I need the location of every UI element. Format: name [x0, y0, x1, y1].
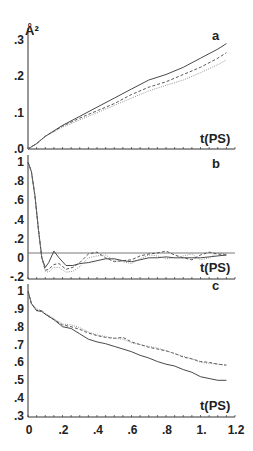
- y-tick-label: .6: [14, 355, 24, 369]
- x-tick-label: 1.2: [228, 423, 245, 437]
- series-dashed: [28, 162, 226, 270]
- y-tick-label: .3: [14, 33, 24, 47]
- y-tick-label: -.2: [10, 270, 24, 284]
- y-tick-label: .2: [14, 232, 24, 246]
- y-tick-label: .4: [14, 391, 24, 405]
- y-tick-label: .2: [14, 69, 24, 83]
- series-dotted: [28, 291, 226, 365]
- y-tick-label: .4: [14, 213, 24, 227]
- y-tick-label: .0: [14, 142, 24, 156]
- series-solid: [28, 291, 226, 380]
- series-solid: [28, 162, 226, 267]
- y-tick-label: 0: [17, 251, 24, 265]
- x-axis-label-b: t(PS): [200, 260, 230, 275]
- series-dotted: [28, 60, 226, 149]
- y-tick-label: .7: [14, 338, 24, 352]
- series-dashed: [28, 53, 226, 149]
- panel-b: -.20.2.4.6.81 b t(PS): [10, 155, 235, 284]
- x-axis-label-c: t(PS): [200, 398, 230, 413]
- panel-a: .0.1.2.3 Å² a t(PS): [14, 23, 235, 156]
- y-tick-label: 1: [17, 284, 24, 298]
- x-tick-label: 1.: [196, 423, 206, 437]
- chart-figure: .0.1.2.3 Å² a t(PS) -.20.2.4.6.81 b t(PS…: [0, 0, 253, 451]
- x-tick-label: 0: [26, 423, 33, 437]
- panel-label-c: c: [212, 278, 219, 293]
- x-tick-label: .8: [162, 423, 172, 437]
- y-tick-label: 1: [17, 155, 24, 169]
- panel-label-b: b: [212, 156, 220, 171]
- series-dashed: [28, 291, 226, 365]
- y-tick-label: .8: [14, 320, 24, 334]
- x-tick-label: .6: [127, 423, 137, 437]
- y-tick-label: .3: [14, 409, 24, 423]
- y-axis-label-a: Å²: [25, 23, 39, 38]
- y-tick-label: .5: [14, 373, 24, 387]
- panel-c: .3.4.5.6.7.8.91 0.2.4.6.81.1.2 c t(PS): [14, 278, 245, 437]
- panel-label-a: a: [212, 28, 220, 43]
- y-tick-label: .1: [14, 106, 24, 120]
- y-tick-label: .8: [14, 174, 24, 188]
- y-tick-label: .9: [14, 302, 24, 316]
- x-tick-label: .2: [58, 423, 68, 437]
- y-tick-label: .6: [14, 193, 24, 207]
- x-tick-label: .4: [93, 423, 103, 437]
- x-axis-label-a: t(PS): [200, 131, 230, 146]
